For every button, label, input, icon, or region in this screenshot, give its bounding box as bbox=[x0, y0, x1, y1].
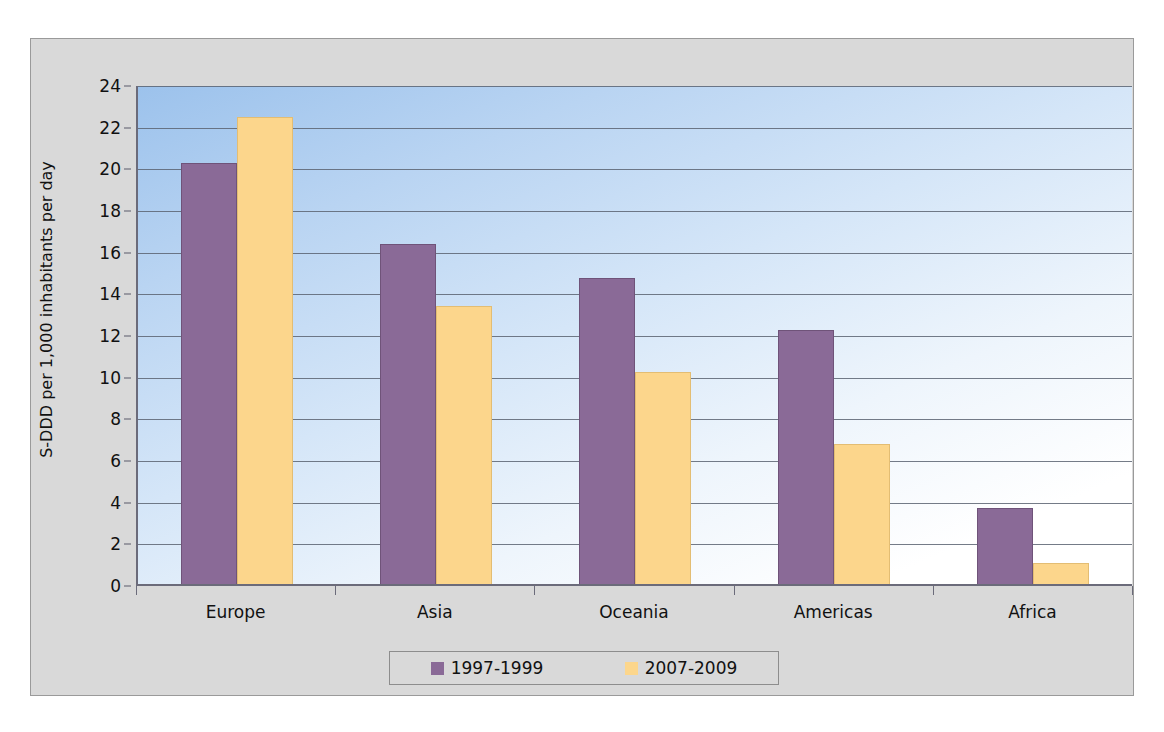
y-axis-tick-label: 20 bbox=[99, 159, 121, 179]
legend-swatch-icon bbox=[431, 662, 444, 675]
legend-label: 2007-2009 bbox=[645, 658, 738, 678]
bars-layer bbox=[138, 86, 1132, 584]
y-axis-title: S-DDD per 1,000 inhabitants per day bbox=[31, 39, 61, 579]
bar[interactable] bbox=[181, 163, 237, 584]
bar-group bbox=[337, 86, 536, 584]
y-axis-tick-label: 18 bbox=[99, 201, 121, 221]
x-axis-tick-label: Oceania bbox=[534, 595, 733, 629]
bar-group bbox=[933, 86, 1132, 584]
y-axis-tick-mark bbox=[124, 461, 131, 462]
x-axis-tick-mark bbox=[534, 586, 535, 595]
x-axis-tick-mark bbox=[136, 586, 137, 595]
x-axis-tick-mark bbox=[335, 586, 336, 595]
chart-container: S-DDD per 1,000 inhabitants per day 0246… bbox=[30, 38, 1134, 696]
x-axis-tick-label: Americas bbox=[734, 595, 933, 629]
chart-legend: 1997-19992007-2009 bbox=[389, 651, 779, 685]
y-axis-title-text: S-DDD per 1,000 inhabitants per day bbox=[37, 161, 56, 458]
y-axis-tick-label: 16 bbox=[99, 243, 121, 263]
y-axis-tick-label: 8 bbox=[110, 409, 121, 429]
bar[interactable] bbox=[635, 372, 691, 585]
x-axis-tick-label: Europe bbox=[136, 595, 335, 629]
y-axis-tick-label: 0 bbox=[110, 576, 121, 596]
x-axis-tick-labels: EuropeAsiaOceaniaAmericasAfrica bbox=[136, 595, 1132, 629]
y-axis-tick-mark bbox=[124, 211, 131, 212]
bar[interactable] bbox=[1033, 563, 1089, 584]
y-axis-tick-mark bbox=[124, 336, 131, 337]
x-axis-tick-mark bbox=[1132, 586, 1133, 595]
y-axis-tick-label: 22 bbox=[99, 118, 121, 138]
y-axis-tick-label: 4 bbox=[110, 493, 121, 513]
x-axis-tick-label: Africa bbox=[933, 595, 1132, 629]
bar[interactable] bbox=[778, 330, 834, 584]
x-axis-tick-mark bbox=[734, 586, 735, 595]
plot-area bbox=[136, 86, 1132, 586]
y-axis-tick-label: 2 bbox=[110, 534, 121, 554]
y-axis-tick-mark bbox=[124, 169, 131, 170]
bar[interactable] bbox=[834, 444, 890, 584]
y-axis-tick-mark bbox=[124, 377, 131, 378]
y-axis-tick-mark bbox=[124, 252, 131, 253]
bar[interactable] bbox=[579, 278, 635, 584]
y-axis-tick-mark bbox=[124, 586, 131, 587]
y-axis-tick-mark bbox=[124, 294, 131, 295]
y-axis-tick-label: 12 bbox=[99, 326, 121, 346]
legend-item[interactable]: 1997-1999 bbox=[431, 658, 544, 678]
bar[interactable] bbox=[977, 508, 1033, 584]
y-axis-tick-mark bbox=[124, 127, 131, 128]
bar[interactable] bbox=[380, 244, 436, 584]
legend-label: 1997-1999 bbox=[451, 658, 544, 678]
legend-swatch-icon bbox=[625, 662, 638, 675]
y-axis-tick-mark bbox=[124, 419, 131, 420]
legend-item[interactable]: 2007-2009 bbox=[625, 658, 738, 678]
y-axis-tick-label: 6 bbox=[110, 451, 121, 471]
y-axis-tick-labels: 024681012141618202224 bbox=[61, 86, 131, 586]
bar[interactable] bbox=[436, 306, 492, 584]
y-axis-tick-label: 14 bbox=[99, 284, 121, 304]
bar[interactable] bbox=[237, 117, 293, 584]
bar-group bbox=[138, 86, 337, 584]
y-axis-tick-mark bbox=[124, 544, 131, 545]
y-axis-tick-label: 24 bbox=[99, 76, 121, 96]
bar-group bbox=[734, 86, 933, 584]
x-axis-tick-mark bbox=[933, 586, 934, 595]
y-axis-tick-label: 10 bbox=[99, 368, 121, 388]
y-axis-tick-mark bbox=[124, 86, 131, 87]
y-axis-tick-mark bbox=[124, 502, 131, 503]
x-axis-tick-label: Asia bbox=[335, 595, 534, 629]
bar-group bbox=[536, 86, 735, 584]
